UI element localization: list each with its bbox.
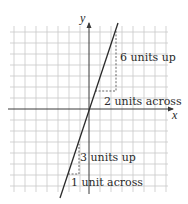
y-axis (87, 22, 92, 194)
lower-rise-label: 3 units up (80, 151, 136, 164)
gradient-diagram: y x 6 units up 2 units across 3 units up… (0, 0, 188, 204)
x-axis-label: x (171, 108, 178, 122)
upper-rise-label: 6 units up (120, 51, 176, 64)
upper-run-label: 2 units across (104, 95, 182, 108)
y-axis-label: y (79, 11, 86, 25)
lower-run-label: 1 unit across (71, 176, 143, 189)
y-axis-arrow-icon (87, 22, 92, 28)
